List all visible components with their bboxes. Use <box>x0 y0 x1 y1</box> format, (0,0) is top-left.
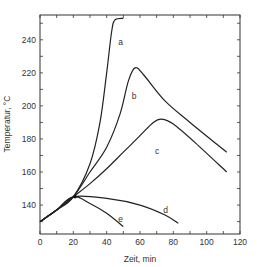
y-tick-label: 160 <box>22 167 36 177</box>
x-tick-label: 0 <box>38 237 43 247</box>
y-tick-label: 200 <box>22 101 36 111</box>
y-axis-ticks: 140160180200220240 <box>22 23 240 221</box>
y-tick-label: 180 <box>22 134 36 144</box>
curve-labels: abcde <box>118 37 168 224</box>
branch-point-marker <box>73 195 77 199</box>
x-tick-label: 40 <box>102 237 112 247</box>
x-tick-label: 20 <box>69 237 79 247</box>
series-c-line <box>40 119 227 222</box>
y-axis-label: Temperatur, °C <box>2 96 12 153</box>
curve-label-d: d <box>163 205 168 215</box>
x-axis-label: Zeit, min <box>124 254 157 264</box>
curve-label-c: c <box>155 146 160 156</box>
data-series <box>40 18 227 226</box>
curve-label-e: e <box>118 214 123 224</box>
curve-label-a: a <box>118 37 123 47</box>
x-tick-label: 60 <box>135 237 145 247</box>
chart: 020406080100120 140160180200220240 abcde… <box>0 0 257 267</box>
series-a-line <box>40 18 123 221</box>
x-axis-ticks: 020406080100120 <box>38 15 248 247</box>
x-tick-label: 120 <box>233 237 247 247</box>
curve-label-b: b <box>132 91 137 101</box>
x-tick-label: 80 <box>169 237 179 247</box>
series-e-line <box>40 197 123 227</box>
y-tick-label: 240 <box>22 35 36 45</box>
series-d-line <box>40 196 178 223</box>
y-tick-label: 140 <box>22 200 36 210</box>
x-tick-label: 100 <box>200 237 214 247</box>
y-tick-label: 220 <box>22 68 36 78</box>
